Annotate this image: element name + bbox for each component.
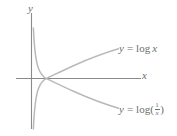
annotation-log-x-arg: x bbox=[152, 43, 157, 54]
annotation-log-x: y = log x bbox=[119, 43, 157, 54]
annotation-log-x-lhs: y bbox=[119, 43, 124, 54]
fraction-denominator: x bbox=[155, 109, 160, 117]
annotation-log-x-func: log bbox=[136, 43, 150, 54]
x-axis-label: x bbox=[142, 70, 147, 81]
fraction-numerator: 1 bbox=[154, 102, 160, 109]
fraction-one-over-x: 1 x bbox=[154, 102, 160, 118]
curve-log-inv-x bbox=[33, 28, 118, 108]
annotation-log-x-equals: = bbox=[127, 43, 133, 54]
annotation-log-inv-x-open-paren: ( bbox=[150, 104, 154, 115]
curve-log-x bbox=[33, 49, 118, 129]
annotation-log-inv-x: y = log ( 1 x ) bbox=[119, 102, 164, 118]
y-axis-label: y bbox=[28, 3, 33, 14]
annotation-log-inv-x-lhs: y bbox=[119, 104, 124, 115]
annotation-log-inv-x-equals: = bbox=[127, 104, 133, 115]
log-graph-figure: y x y = log x y = log ( 1 x ) bbox=[0, 0, 177, 136]
annotation-log-inv-x-close-paren: ) bbox=[160, 104, 164, 115]
annotation-log-inv-x-func: log bbox=[136, 104, 150, 115]
